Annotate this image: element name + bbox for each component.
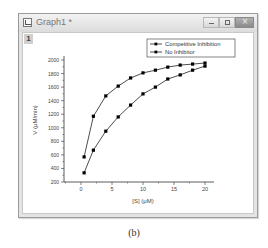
plot-area: 2004006008001000120014001600180020000510… bbox=[0, 0, 268, 248]
x-tick-label: 10 bbox=[140, 186, 146, 192]
y-tick-label: 2000 bbox=[48, 57, 59, 63]
data-point-marker bbox=[104, 130, 107, 133]
data-point-marker bbox=[141, 71, 144, 74]
y-tick-label: 1200 bbox=[48, 111, 59, 117]
data-point-marker bbox=[203, 65, 206, 68]
data-point-marker bbox=[179, 73, 182, 76]
data-point-marker bbox=[104, 94, 107, 97]
data-point-marker bbox=[191, 62, 194, 65]
x-axis-label: [S] (μM) bbox=[132, 198, 153, 204]
data-point-marker bbox=[129, 76, 132, 79]
data-point-marker bbox=[179, 63, 182, 66]
data-point-marker bbox=[154, 86, 157, 89]
legend-marker bbox=[155, 43, 158, 46]
data-point-marker bbox=[166, 77, 169, 80]
y-tick-label: 1000 bbox=[48, 125, 59, 131]
data-point-marker bbox=[92, 115, 95, 118]
data-point-marker bbox=[191, 69, 194, 72]
x-tick-label: 0 bbox=[79, 186, 82, 192]
x-tick-label: 15 bbox=[171, 186, 177, 192]
data-point-marker bbox=[154, 69, 157, 72]
data-point-marker bbox=[166, 66, 169, 69]
x-tick-label: 5 bbox=[110, 186, 113, 192]
y-tick-label: 1800 bbox=[48, 71, 59, 77]
legend-label: Competitive Inhibition bbox=[165, 41, 220, 47]
legend-marker bbox=[155, 51, 158, 54]
data-point-marker bbox=[117, 115, 120, 118]
figure-caption: (b) bbox=[0, 227, 268, 238]
data-point-marker bbox=[141, 92, 144, 95]
data-point-marker bbox=[92, 149, 95, 152]
y-tick-label: 800 bbox=[51, 138, 60, 144]
series-lines bbox=[83, 61, 207, 174]
legend: Competitive InhibitionNo Inhibitor bbox=[147, 39, 235, 57]
data-point-marker bbox=[83, 171, 86, 174]
y-tick-label: 1400 bbox=[48, 98, 59, 104]
y-axis-label: V (μM/min) bbox=[32, 105, 38, 134]
legend-label: No Inhibitor bbox=[165, 49, 195, 55]
series-line bbox=[84, 63, 205, 157]
axes: 2004006008001000120014001600180020000510… bbox=[32, 56, 214, 204]
y-tick-label: 600 bbox=[51, 152, 60, 158]
data-point-marker bbox=[117, 84, 120, 87]
y-tick-label: 400 bbox=[51, 165, 60, 171]
x-tick-label: 20 bbox=[202, 186, 208, 192]
y-tick-label: 1600 bbox=[48, 84, 59, 90]
series-line bbox=[84, 66, 205, 173]
data-point-marker bbox=[203, 61, 206, 64]
data-point-marker bbox=[129, 103, 132, 106]
y-tick-label: 200 bbox=[51, 179, 60, 185]
data-point-marker bbox=[83, 155, 86, 158]
